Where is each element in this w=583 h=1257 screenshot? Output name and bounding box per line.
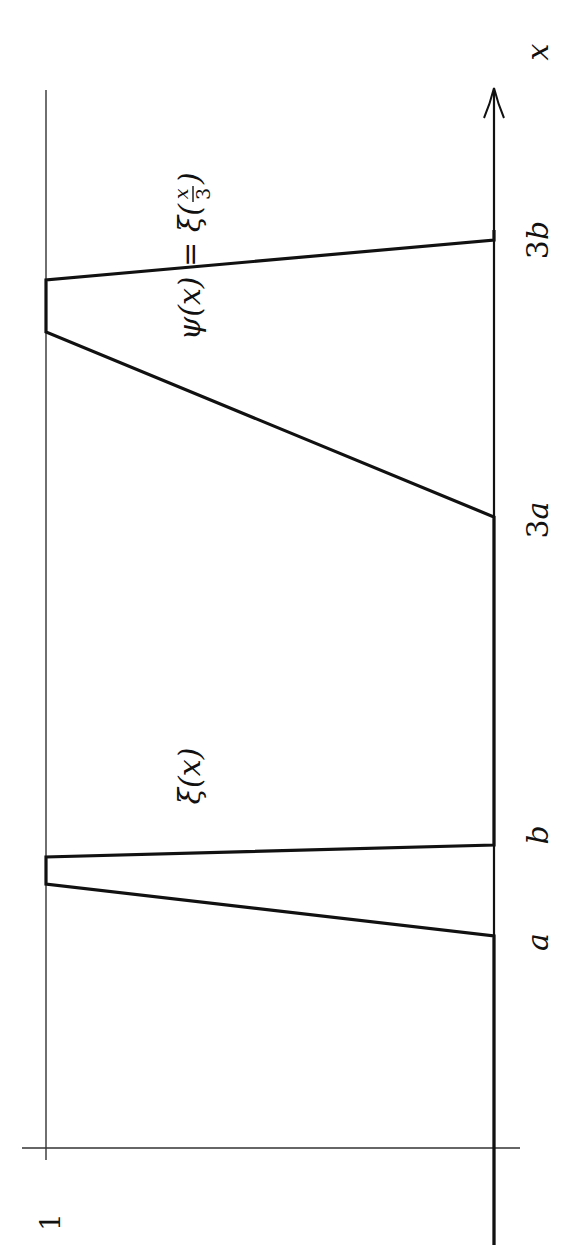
tick-label-3a-var: a <box>520 502 555 520</box>
curve-label-psi-suffix: ) <box>172 172 207 185</box>
level-one-label: 1 <box>34 1213 67 1231</box>
x-axis-label: x <box>520 43 555 60</box>
curve-label-xi: ξ(x) <box>172 748 207 805</box>
function-curve <box>46 230 494 1245</box>
curve-label-psi-frac-num: x <box>170 188 192 199</box>
curve-label-psi-prefix: ψ(x) = ξ( <box>172 203 207 341</box>
plot-canvas: x 1 a b 3a 3b ξ(x) ψ(x) = ξ( x 3 ) <box>0 0 583 1257</box>
tick-label-a: a <box>520 933 555 951</box>
tick-label-3b-var: b <box>520 221 555 240</box>
tick-label-3b: 3b <box>520 221 555 259</box>
tick-label-3a: 3a <box>520 502 555 539</box>
curve-label-psi: ψ(x) = ξ( x 3 ) <box>170 172 214 340</box>
tick-label-b: b <box>520 825 555 844</box>
curve-label-psi-frac-den: 3 <box>192 188 214 200</box>
